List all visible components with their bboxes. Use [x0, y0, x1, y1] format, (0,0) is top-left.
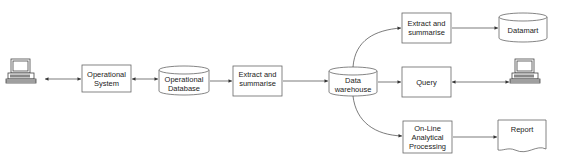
extract-summarise-label-1: Extract and summarise	[233, 66, 282, 92]
operational-system-label: Operational System	[82, 65, 131, 92]
computer-terminal-icon	[510, 59, 540, 83]
edge-warehouse-extract2	[353, 28, 401, 67]
operational-database-label: Operational Database	[159, 74, 209, 94]
extract-summarise-label-2: Extract and summarise	[402, 13, 451, 43]
computer-terminal-icon	[6, 59, 36, 83]
query-label: Query	[402, 67, 451, 97]
report-label: Report	[498, 120, 546, 138]
data-warehouse-label: Data warehouse	[329, 75, 377, 95]
olap-label: On-Line Analytical Processing	[403, 121, 452, 153]
edge-warehouse-olap	[353, 96, 402, 136]
data-warehouse-architecture-diagram: Operational System Operational Database …	[0, 0, 565, 160]
datamart-label: Datamart	[499, 21, 547, 39]
